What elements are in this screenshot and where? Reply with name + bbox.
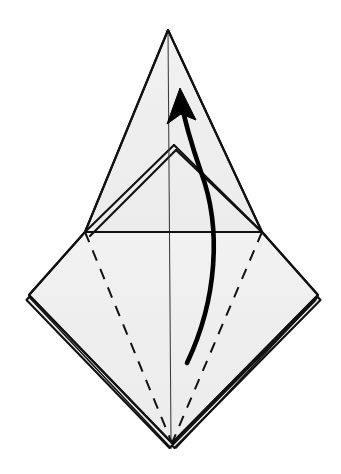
origami-diagram-figure xyxy=(0,0,341,474)
upper-flap-face xyxy=(85,30,262,232)
origami-illustration xyxy=(0,0,341,474)
